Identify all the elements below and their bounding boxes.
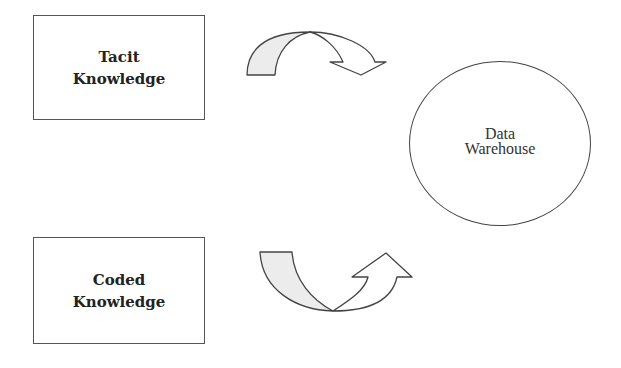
tacit-knowledge-label-line2: Knowledge	[73, 68, 166, 90]
upper-curved-arrow-icon	[247, 32, 386, 75]
coded-knowledge-box: Coded Knowledge	[33, 237, 205, 344]
tacit-knowledge-box: Tacit Knowledge	[33, 15, 205, 120]
tacit-knowledge-label-line1: Tacit	[98, 46, 139, 68]
lower-curved-arrow-icon	[260, 252, 412, 311]
coded-knowledge-label-line2: Knowledge	[73, 291, 166, 313]
coded-knowledge-label-line1: Coded	[93, 269, 145, 291]
data-warehouse-ellipse: Data Warehouse	[409, 61, 591, 226]
data-warehouse-label-line2: Warehouse	[465, 138, 536, 159]
